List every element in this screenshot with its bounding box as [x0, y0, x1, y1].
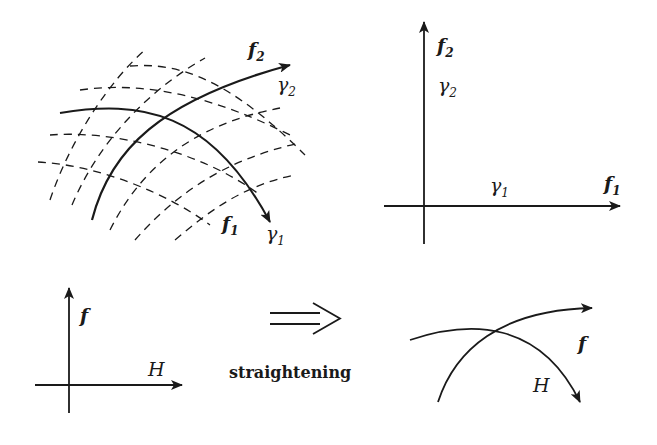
- label-f1: f1: [220, 212, 239, 238]
- label-gamma1: γ1: [266, 222, 285, 248]
- implies-arrow: [270, 303, 340, 334]
- caption-straightening: straightening: [229, 363, 351, 382]
- label-gamma2: γ2: [277, 73, 296, 99]
- label-f: f: [78, 304, 91, 326]
- label-f-curve: f: [576, 332, 589, 354]
- fh-axes-panel: [35, 288, 182, 413]
- label-f2: f2: [246, 38, 265, 64]
- H-curve: [410, 329, 580, 402]
- label-H-curve: H: [532, 374, 550, 396]
- gamma2-curve: [92, 65, 290, 220]
- curvilinear-grid-panel: [38, 50, 305, 240]
- label-gamma2-axis: γ2: [438, 74, 457, 100]
- label-gamma1-axis: γ1: [490, 174, 509, 200]
- label-H: H: [147, 358, 165, 380]
- straightening-diagram: f2 γ2 f1 γ1 f2 γ2 γ1 f1 f H straightenin…: [0, 0, 657, 445]
- rectified-axes-panel: [384, 22, 620, 244]
- label-f2-axis: f2: [435, 34, 454, 60]
- curved-fh-panel: [410, 308, 592, 402]
- f-curve: [438, 308, 592, 402]
- label-f1-axis: f1: [602, 172, 621, 198]
- gamma1-curve: [60, 109, 270, 222]
